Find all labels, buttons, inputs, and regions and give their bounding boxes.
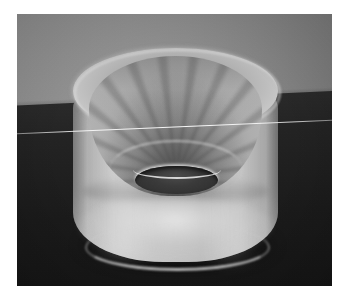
- center-hole-highlight: [133, 161, 221, 179]
- funnel-cup-object: [73, 48, 278, 268]
- photograph: [17, 14, 332, 286]
- image-canvas: [0, 0, 343, 300]
